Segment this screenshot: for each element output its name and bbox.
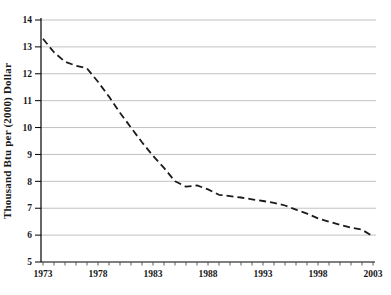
y-tick-label: 6: [27, 230, 32, 240]
x-tick-label: 1983: [144, 269, 163, 279]
y-tick-label: 14: [23, 15, 33, 25]
y-tick-label: 5: [27, 257, 32, 267]
data-series-line: [43, 39, 373, 237]
y-tick-label: 8: [27, 177, 32, 187]
y-tick-label: 13: [23, 42, 33, 52]
y-axis-title: Thousand Btu per (2000) Dollar: [1, 63, 14, 219]
y-tick-label: 9: [27, 150, 32, 160]
y-tick-label: 11: [23, 96, 32, 106]
x-tick-label: 2003: [364, 269, 383, 279]
x-tick-label: 1988: [199, 269, 218, 279]
axes-layer: [35, 18, 375, 266]
x-tick-label: 1998: [309, 269, 328, 279]
chart-canvas: 5678910111213141973197819831988199319982…: [0, 0, 391, 295]
y-tick-label: 7: [27, 203, 32, 213]
y-tick-label: 10: [23, 123, 33, 133]
tick-labels-layer: 5678910111213141973197819831988199319982…: [23, 15, 383, 279]
gridlines-layer: [41, 20, 376, 235]
data-series-layer: [43, 39, 373, 237]
x-tick-label: 1973: [34, 269, 53, 279]
x-tick-label: 1978: [89, 269, 108, 279]
y-tick-label: 12: [23, 69, 33, 79]
x-tick-label: 1993: [254, 269, 273, 279]
energy-intensity-chart: 5678910111213141973197819831988199319982…: [0, 0, 391, 295]
